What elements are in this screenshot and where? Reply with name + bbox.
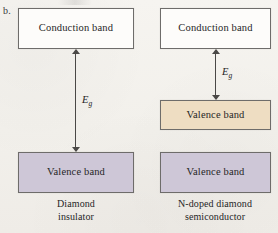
scan-artifact	[58, 0, 92, 5]
right-donor-band-label: Valence band	[186, 109, 244, 120]
right-conduction-band-label: Conduction band	[178, 23, 252, 34]
right-donor-band-box: Valence band	[160, 100, 271, 130]
left-valence-band-box: Valence band	[18, 152, 134, 193]
left-conduction-band-label: Conduction band	[39, 23, 113, 34]
right-band-gap-symbol: E	[222, 66, 228, 77]
left-band-gap-subscript: g	[89, 99, 93, 108]
band-diagram-figure: b. Conduction band Eg Valence band Diamo…	[0, 0, 278, 233]
left-diagram-caption: Diamond insulator	[18, 198, 134, 223]
right-band-gap-arrow	[211, 49, 220, 100]
left-caption-line-2: insulator	[18, 211, 134, 224]
right-band-gap-label: Eg	[222, 66, 232, 77]
left-band-gap-label: Eg	[82, 94, 92, 105]
right-diagram-caption: N-doped diamond semiconductor	[152, 198, 278, 223]
left-band-gap-arrow	[71, 49, 80, 152]
left-caption-line-1: Diamond	[18, 198, 134, 211]
left-conduction-band-box: Conduction band	[18, 8, 134, 49]
right-band-gap-subscript: g	[229, 71, 233, 80]
arrow-shaft	[215, 52, 216, 97]
right-valence-band-box: Valence band	[160, 152, 271, 193]
right-conduction-band-box: Conduction band	[160, 8, 271, 49]
panel-label: b.	[3, 5, 11, 16]
left-valence-band-label: Valence band	[47, 167, 105, 178]
left-band-gap-symbol: E	[82, 94, 88, 105]
right-valence-band-label: Valence band	[186, 167, 244, 178]
arrow-shaft	[75, 52, 76, 149]
right-caption-line-2: semiconductor	[152, 211, 278, 224]
right-caption-line-1: N-doped diamond	[152, 198, 278, 211]
